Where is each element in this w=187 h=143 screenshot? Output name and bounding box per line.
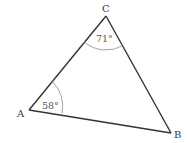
vertex-label-c: C [102,3,110,14]
vertex-label-b: B [174,129,181,140]
angle-label-a: 58° [42,100,59,111]
side-cb [106,16,171,133]
triangle-diagram: C A B 71° 58° [0,0,187,143]
vertex-label-a: A [16,108,25,119]
side-ac [29,16,106,110]
side-ab [29,110,171,133]
angle-label-c: 71° [96,33,113,44]
